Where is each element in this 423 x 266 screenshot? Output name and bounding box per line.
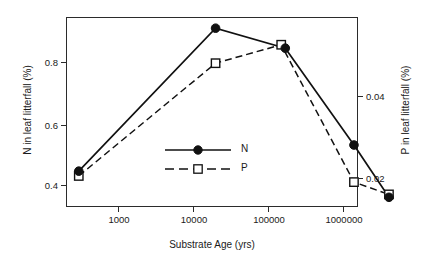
- data-point-p-3: [350, 178, 358, 186]
- figure: 0.8 0.6 0.4 0.04 0.02 1000 10000 100000 …: [0, 0, 423, 266]
- y-right-tick-0.02: [358, 178, 363, 179]
- y-right-axis-title: P in leaf litterfall (%): [401, 35, 411, 185]
- x-axis-title: Substrate Age (yrs): [126, 240, 298, 250]
- y-right-tick-0.04: [358, 96, 363, 97]
- y-left-tick-0.6: [61, 125, 66, 126]
- x-ticklabel-10000: 10000: [159, 215, 229, 225]
- data-point-n-4: [385, 193, 394, 202]
- data-point-n-0: [74, 167, 83, 176]
- x-ticklabel-1000: 1000: [84, 215, 154, 225]
- y-left-tick-0.8: [61, 62, 66, 63]
- data-point-n-3: [350, 141, 359, 150]
- legend: N P: [163, 142, 259, 182]
- y-left-axis-title: N in leaf litterfall (%): [23, 35, 33, 185]
- legend-sample-n-icon: [163, 142, 233, 158]
- x-tick-1000000: [343, 207, 344, 212]
- legend-entry-p: P: [163, 161, 259, 177]
- x-tick-100000: [268, 207, 269, 212]
- x-ticklabel-1000000: 1000000: [309, 215, 379, 225]
- x-ticklabel-100000: 100000: [234, 215, 304, 225]
- x-tick-10000: [193, 207, 194, 212]
- legend-sample-p-icon: [163, 161, 233, 177]
- legend-label-n: N: [241, 144, 248, 154]
- x-tick-1000: [118, 207, 119, 212]
- data-point-n-1: [211, 24, 220, 33]
- y-left-tick-0.4: [61, 185, 66, 186]
- data-point-n-2: [281, 44, 290, 53]
- legend-label-p: P: [241, 163, 248, 173]
- legend-entry-n: N: [163, 142, 259, 158]
- data-point-p-1: [211, 59, 219, 67]
